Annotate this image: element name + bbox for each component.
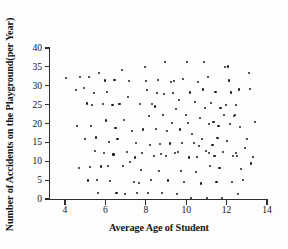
data-point xyxy=(222,151,224,153)
data-point xyxy=(169,142,171,144)
data-point xyxy=(131,130,133,132)
data-point xyxy=(124,193,126,195)
data-point xyxy=(179,128,181,130)
data-point xyxy=(230,91,232,93)
data-point xyxy=(112,153,114,155)
data-point xyxy=(208,123,210,125)
data-point xyxy=(211,144,213,146)
data-point xyxy=(191,133,193,135)
data-point xyxy=(113,79,115,81)
data-point xyxy=(181,142,183,144)
data-point xyxy=(224,66,226,68)
data-point xyxy=(153,155,155,157)
data-point xyxy=(140,169,142,171)
data-point xyxy=(221,197,223,199)
data-point xyxy=(164,61,166,63)
x-tick-label-6: 6 xyxy=(95,205,115,215)
data-point xyxy=(238,88,240,90)
data-point xyxy=(128,80,130,82)
data-point xyxy=(76,125,78,127)
data-point xyxy=(106,91,108,93)
plot-area xyxy=(49,48,268,199)
data-point xyxy=(161,192,163,194)
data-point xyxy=(90,125,92,127)
data-point xyxy=(123,119,125,121)
data-point xyxy=(151,103,153,105)
data-point xyxy=(219,107,221,109)
data-point xyxy=(148,115,150,117)
data-point xyxy=(229,123,231,125)
data-point xyxy=(201,138,203,140)
data-point xyxy=(217,125,219,127)
data-point xyxy=(235,104,237,106)
data-point xyxy=(200,182,202,184)
data-point xyxy=(242,179,244,181)
data-point xyxy=(115,192,117,194)
y-tick-label-35: 35 xyxy=(20,62,42,72)
data-point xyxy=(240,168,242,170)
data-point xyxy=(202,88,204,90)
data-point xyxy=(198,145,200,147)
data-point xyxy=(141,152,143,154)
y-tick-label-10: 10 xyxy=(20,156,42,166)
y-tick-label-0: 0 xyxy=(20,194,42,204)
x-tick-label-8: 8 xyxy=(136,205,156,215)
data-point xyxy=(65,77,67,79)
data-point xyxy=(162,114,164,116)
data-point xyxy=(176,193,178,195)
data-point xyxy=(104,79,106,81)
data-point xyxy=(194,101,196,103)
data-point xyxy=(232,155,234,157)
data-point xyxy=(103,152,105,154)
data-point xyxy=(100,165,102,167)
data-point xyxy=(167,179,169,181)
data-point xyxy=(215,181,217,183)
data-point xyxy=(231,181,233,183)
data-point xyxy=(239,126,241,128)
data-point xyxy=(206,197,208,199)
data-point xyxy=(156,92,158,94)
data-point xyxy=(225,104,227,106)
data-point xyxy=(165,155,167,157)
data-point xyxy=(157,79,159,81)
data-point xyxy=(207,76,209,78)
data-point xyxy=(171,122,173,124)
data-point xyxy=(208,152,210,154)
data-point xyxy=(95,136,97,138)
data-point xyxy=(170,81,172,83)
data-point xyxy=(216,137,218,139)
data-point xyxy=(86,102,88,104)
data-point xyxy=(199,117,201,119)
data-point xyxy=(138,182,140,184)
data-point xyxy=(173,80,175,82)
data-point xyxy=(235,152,237,154)
data-point xyxy=(218,167,220,169)
data-point xyxy=(166,130,168,132)
data-point xyxy=(84,138,86,140)
data-point xyxy=(147,192,149,194)
data-point xyxy=(213,155,215,157)
data-point xyxy=(209,165,211,167)
data-point xyxy=(139,103,141,105)
data-point xyxy=(94,150,96,152)
x-tick-label-14: 14 xyxy=(257,205,277,215)
data-point xyxy=(177,151,179,153)
data-point xyxy=(204,107,206,109)
data-point xyxy=(127,96,129,98)
data-point xyxy=(116,138,118,140)
data-point xyxy=(188,156,190,158)
data-point xyxy=(196,156,198,158)
data-point xyxy=(185,114,187,116)
data-point xyxy=(142,128,144,130)
data-point xyxy=(98,72,100,74)
data-point xyxy=(75,89,77,91)
data-point xyxy=(79,76,81,78)
data-point xyxy=(226,140,228,142)
data-point xyxy=(91,104,93,106)
y-tick-label-40: 40 xyxy=(20,43,42,53)
data-point xyxy=(252,156,254,158)
data-point xyxy=(87,179,89,181)
data-point xyxy=(212,121,214,123)
data-point xyxy=(109,180,111,182)
data-point xyxy=(108,141,110,143)
